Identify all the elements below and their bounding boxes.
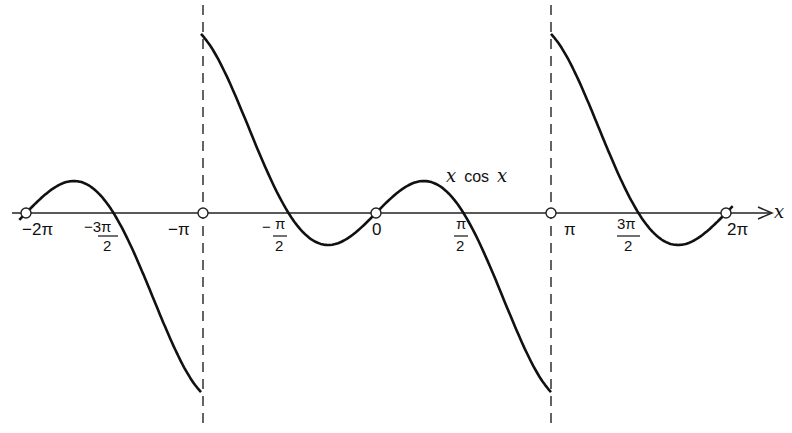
svg-text:π: π xyxy=(456,215,466,232)
svg-text:2: 2 xyxy=(275,237,283,254)
svg-text:2: 2 xyxy=(624,237,632,254)
svg-text:2: 2 xyxy=(456,237,464,254)
svg-text:−: − xyxy=(262,218,271,235)
curve-label: x cos x xyxy=(446,165,507,186)
tick-neg-pi: −π xyxy=(168,220,190,239)
tick-2pi: 2π xyxy=(727,220,748,239)
tick-3pi-2: 3π 2 xyxy=(617,215,640,254)
svg-text:π: π xyxy=(275,215,285,232)
circle-pi xyxy=(546,208,556,218)
circle-neg-2pi xyxy=(21,208,31,218)
x-axis-label: x xyxy=(774,201,784,222)
circle-2pi xyxy=(721,208,731,218)
svg-text:2: 2 xyxy=(103,237,111,254)
svg-text:3π: 3π xyxy=(617,215,636,232)
function-plot: x x cos x −2π −3π 2 −π − π 2 0 π 2 π 3π … xyxy=(0,0,792,433)
tick-neg-pi-2: − π 2 xyxy=(262,215,287,254)
tick-neg-2pi: −2π xyxy=(22,220,53,239)
tick-pi: π xyxy=(564,220,576,239)
circle-neg-pi xyxy=(198,208,208,218)
svg-text:−3π: −3π xyxy=(84,218,111,235)
tick-pi-2: π 2 xyxy=(454,215,468,254)
circle-zero xyxy=(371,208,381,218)
tick-neg-3pi-2: −3π 2 xyxy=(84,218,118,254)
tick-zero: 0 xyxy=(372,220,381,239)
